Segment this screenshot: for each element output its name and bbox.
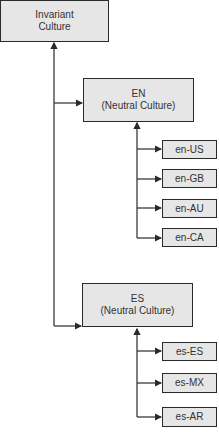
node-label: en-AU — [175, 203, 203, 215]
node-label: Culture — [38, 21, 70, 33]
specific-culture-node: es-AR — [162, 407, 217, 427]
node-label: (Neutral Culture) — [102, 100, 176, 112]
neutral-culture-node-es: ES (Neutral Culture) — [82, 283, 193, 327]
node-label: es-ES — [176, 346, 203, 358]
specific-culture-node: es-MX — [162, 373, 217, 393]
specific-culture-node: en-CA — [162, 228, 217, 247]
node-label: en-CA — [175, 232, 203, 244]
invariant-culture-node: Invariant Culture — [0, 0, 109, 42]
node-label: es-AR — [176, 411, 204, 423]
specific-culture-node: en-AU — [162, 199, 217, 218]
node-label: es-MX — [175, 377, 204, 389]
node-label: en-GB — [175, 173, 204, 185]
node-code: EN — [132, 88, 146, 100]
specific-culture-node: es-ES — [162, 342, 217, 361]
node-label: en-US — [175, 144, 203, 156]
neutral-culture-node-en: EN (Neutral Culture) — [83, 78, 194, 122]
node-label: Invariant — [35, 9, 73, 21]
specific-culture-node: en-US — [162, 140, 217, 159]
node-code: ES — [131, 293, 144, 305]
node-label: (Neutral Culture) — [101, 305, 175, 317]
specific-culture-node: en-GB — [162, 169, 217, 188]
